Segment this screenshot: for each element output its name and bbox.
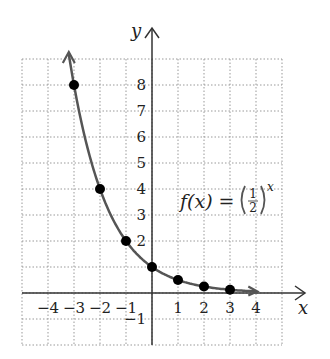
y-tick-label: 5 — [136, 154, 146, 172]
data-point — [121, 236, 131, 246]
y-tick-label: 2 — [136, 232, 146, 250]
x-axis-label: x — [298, 297, 308, 318]
x-tick-label: 4 — [251, 299, 261, 317]
y-tick-label: 4 — [136, 180, 146, 198]
data-point — [69, 80, 79, 90]
y-tick-label: 8 — [136, 76, 146, 94]
data-point — [225, 285, 235, 295]
svg-text:x: x — [267, 180, 274, 194]
x-tick-label: −4 — [37, 299, 59, 317]
y-tick-label: −1 — [124, 310, 146, 328]
axes — [22, 28, 305, 345]
y-tick-label: 7 — [136, 102, 146, 120]
x-tick-label: 1 — [173, 299, 183, 317]
data-point — [147, 262, 157, 272]
svg-text:f(x) =: f(x) = — [178, 190, 235, 212]
function-label: f(x) = 12x — [178, 180, 274, 215]
x-tick-label: −2 — [89, 299, 111, 317]
data-point — [95, 184, 105, 194]
x-tick-label: −3 — [63, 299, 85, 317]
x-tick-label: 3 — [225, 299, 235, 317]
data-point — [199, 282, 209, 292]
function-curve — [63, 52, 257, 295]
exponential-chart: −4−3−2−11234−12345678 x y f(x) = 12x — [0, 0, 330, 359]
y-tick-label: 3 — [136, 206, 146, 224]
y-tick-label: 6 — [136, 128, 146, 146]
x-tick-label: 2 — [199, 299, 209, 317]
svg-text:2: 2 — [249, 201, 257, 215]
svg-text:1: 1 — [249, 187, 257, 201]
data-point — [173, 275, 183, 285]
y-axis-label: y — [130, 20, 142, 41]
